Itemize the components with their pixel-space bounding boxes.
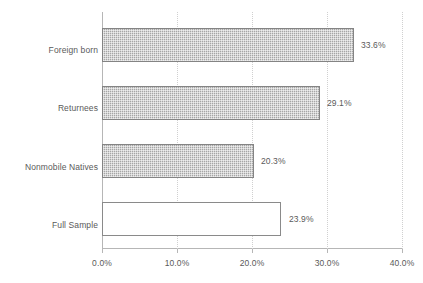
- x-tick-mark-3: [327, 249, 328, 253]
- bar-value-label: 33.6%: [361, 40, 386, 50]
- category-axis-labels: Foreign born Returnees Nonmobile Natives…: [0, 12, 98, 249]
- category-label-2: Nonmobile Natives: [2, 162, 98, 172]
- plot-area: 33.6% 29.1% 20.3% 23.9%: [102, 12, 402, 249]
- gridline-40: [402, 12, 403, 249]
- x-tick-label-4: 40.0%: [390, 258, 415, 268]
- x-tick-label-3: 30.0%: [315, 258, 340, 268]
- bar-returnees[interactable]: [102, 86, 320, 120]
- x-tick-mark-2: [252, 249, 253, 253]
- category-label-3: Full Sample: [2, 220, 98, 230]
- x-tick-mark-1: [177, 249, 178, 253]
- x-tick-mark-0: [102, 249, 103, 253]
- bar-value-label: 29.1%: [327, 98, 352, 108]
- x-tick-label-2: 20.0%: [240, 258, 265, 268]
- x-tick-mark-4: [402, 249, 403, 253]
- bar-value-label: 23.9%: [289, 214, 314, 224]
- x-tick-label-1: 10.0%: [165, 258, 190, 268]
- bar-full-sample[interactable]: [102, 202, 281, 236]
- category-label-1: Returnees: [2, 103, 98, 113]
- category-label-0: Foreign born: [2, 45, 98, 55]
- bar-value-label: 20.3%: [261, 156, 286, 166]
- bar-chart: Foreign born Returnees Nonmobile Natives…: [0, 0, 423, 283]
- x-tick-label-0: 0.0%: [92, 258, 112, 268]
- bar-foreign-born[interactable]: [102, 28, 354, 62]
- bar-nonmobile-natives[interactable]: [102, 144, 254, 178]
